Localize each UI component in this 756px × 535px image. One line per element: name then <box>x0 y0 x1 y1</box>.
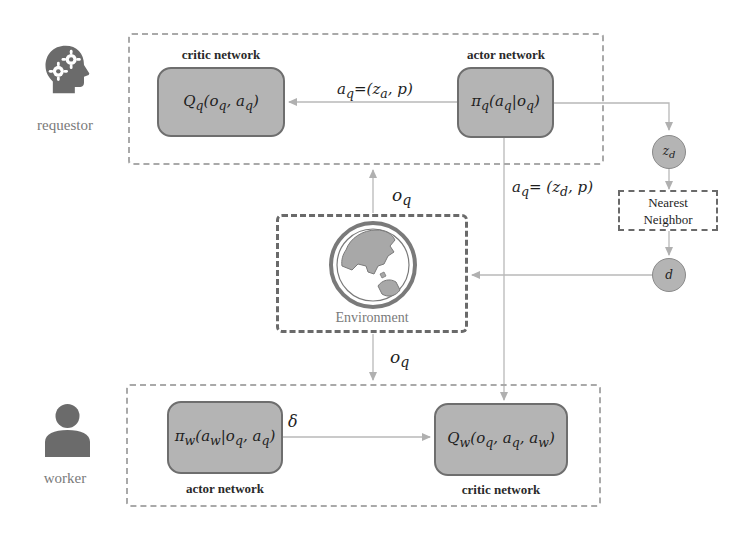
requestor-actor-label: actor network <box>447 47 565 63</box>
person-icon <box>40 402 95 457</box>
worker-critic-formula: Qw(oq, aq, aw) <box>447 429 554 450</box>
requestor-actor-formula: πq(aq|oq) <box>471 92 540 113</box>
nn-label-line1: Nearest <box>648 195 688 210</box>
edge-label-env-to-requestor: oq <box>392 185 411 208</box>
d-node-label: d <box>665 268 673 282</box>
requestor-critic-formula: Qq(oq, aq) <box>183 92 259 113</box>
zd-node[interactable]: zd <box>652 135 686 169</box>
requestor-critic-network[interactable]: Qq(oq, aq) <box>157 67 285 137</box>
nn-label-line2: Neighbor <box>643 212 692 227</box>
d-node[interactable]: d <box>652 258 686 292</box>
worker-label: worker <box>20 470 110 487</box>
worker-actor-label: actor network <box>167 481 283 497</box>
environment-label: Environment <box>276 310 468 326</box>
requestor-actor-network[interactable]: πq(aq|oq) <box>457 67 554 138</box>
edge-label-env-to-worker: oq <box>390 347 409 370</box>
edge-label-actor-to-critic: aq=(za, p) <box>337 80 413 101</box>
nearest-neighbor-box[interactable]: NearestNeighbor <box>618 190 718 231</box>
zd-node-label: zd <box>663 144 676 160</box>
worker-actor-network[interactable]: πw(aw|oq, aq) <box>167 401 283 474</box>
requestor-critic-label: critic network <box>157 47 285 63</box>
worker-critic-label: critic network <box>434 482 568 498</box>
edge-label-actor-to-worker-critic: aq= (zd, p) <box>512 178 593 199</box>
worker-critic-network[interactable]: Qw(oq, aq, aw) <box>434 403 568 476</box>
requestor-icon <box>40 42 95 97</box>
requestor-label: requestor <box>20 117 110 134</box>
worker-actor-formula: πw(aw|oq, aq) <box>175 427 276 448</box>
globe-icon <box>328 220 418 310</box>
